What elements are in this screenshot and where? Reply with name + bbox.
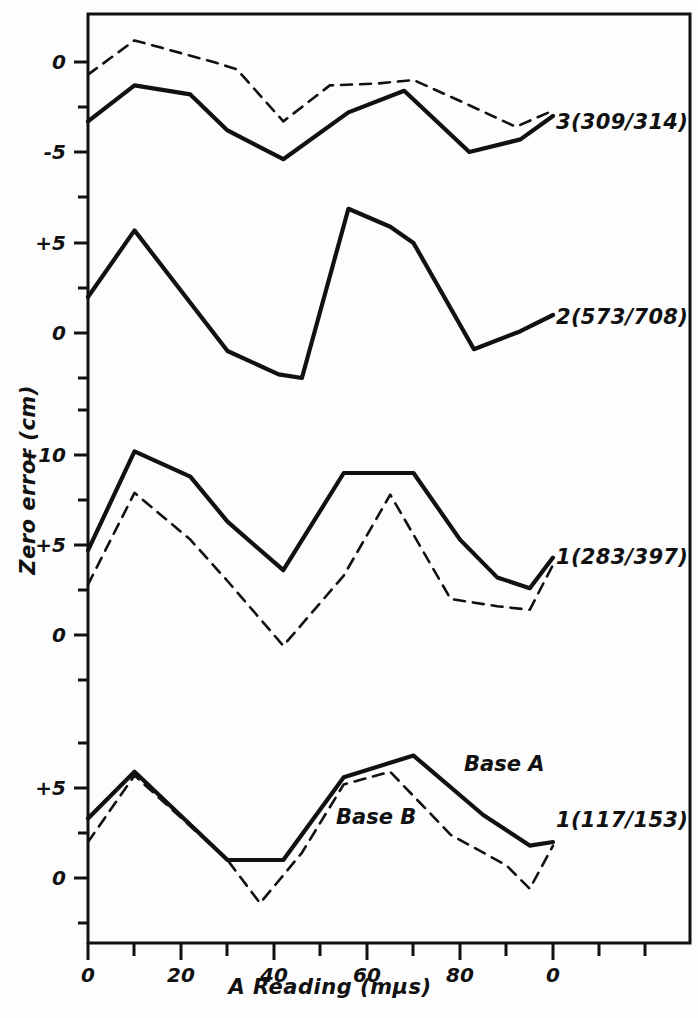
curve-panel-1a-dashed <box>88 493 553 646</box>
xtick-label-0b: 0 <box>546 963 560 987</box>
chart-canvas <box>0 0 698 1018</box>
x-axis-title: A Reading (mµs) <box>120 975 540 999</box>
curve-panel-3-dashed <box>88 40 553 126</box>
ytick-label-0b: 0 <box>14 321 66 345</box>
series-label-1a: 1(283/397) <box>556 545 688 569</box>
x-axis-minor-ticks <box>134 943 645 956</box>
curve-panel-3-solid <box>88 85 553 159</box>
annotation-base-a: Base A <box>464 752 544 776</box>
y-axis-major-ticks <box>74 62 88 878</box>
curve-panel-1a-solid <box>88 451 553 588</box>
chart-figure: 0 -5 +5 0 +10 +5 0 +5 0 0 20 40 60 80 0 … <box>0 0 698 1018</box>
series-label-1b: 1(117/153) <box>556 808 688 832</box>
curve-panel-2-solid <box>88 209 553 378</box>
xtick-label-0a: 0 <box>81 963 95 987</box>
series-label-2: 2(573/708) <box>556 305 688 329</box>
series-label-3: 3(309/314) <box>556 110 688 134</box>
ytick-label-0c: 0 <box>14 623 66 647</box>
y-axis-title: Zero error (cm) <box>16 360 40 600</box>
ytick-label-0d: 0 <box>14 866 66 890</box>
ytick-label-p5c: +5 <box>14 776 66 800</box>
plot-frame <box>88 14 690 943</box>
ytick-label-0a: 0 <box>14 50 66 74</box>
ytick-label-m5: -5 <box>14 140 66 164</box>
ytick-label-p5a: +5 <box>14 231 66 255</box>
annotation-base-b: Base B <box>336 805 416 829</box>
